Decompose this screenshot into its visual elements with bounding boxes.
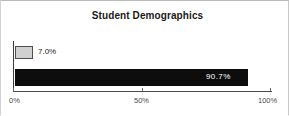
x-axis-line xyxy=(13,91,272,92)
x-tick-mark-100 xyxy=(270,88,271,91)
x-tick-label-50: 50% xyxy=(134,96,149,105)
x-tick-label-0: 0% xyxy=(9,96,20,105)
plot-area: 7.0% 90.7% xyxy=(14,41,271,91)
bar-series-1 xyxy=(15,46,33,59)
x-tick-mark-0 xyxy=(13,88,14,91)
chart-title: Student Demographics xyxy=(1,10,288,21)
bar-label-series-2: 90.7% xyxy=(206,72,231,81)
chart-container: Student Demographics 7.0% 90.7% 0% 50% 1… xyxy=(0,0,289,116)
bar-label-series-1: 7.0% xyxy=(38,47,56,56)
x-tick-label-100: 100% xyxy=(258,96,277,105)
x-tick-mark-50 xyxy=(142,88,143,91)
